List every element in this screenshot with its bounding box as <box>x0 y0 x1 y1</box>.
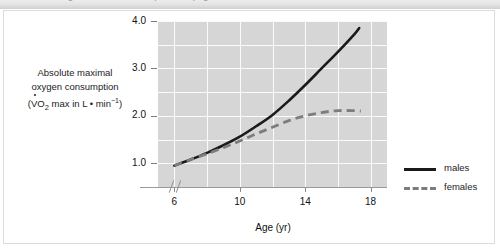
y-axis-title-line-3: (VO2 max in L • min−1) <box>16 94 134 115</box>
y-axis-units-close-paren: ) <box>119 98 122 109</box>
x-axis-line <box>158 187 387 188</box>
y-axis-tick-label: 2.0 <box>118 109 146 120</box>
legend-label-females: females <box>444 181 477 192</box>
y-axis-tick-label: 4.0 <box>118 15 146 26</box>
series-curves <box>158 21 387 187</box>
x-axis-tick-mark <box>240 187 241 192</box>
legend-item-males: males <box>404 161 496 180</box>
y-axis-tick-mark <box>151 68 157 69</box>
x-axis-stub <box>140 187 158 188</box>
oxygen-symbol: O <box>37 98 44 109</box>
y-axis-tick-mark <box>151 21 157 22</box>
y-axis-title: Absolute maximal oxygen consumption (VO2… <box>16 66 134 115</box>
y-axis-tick-label: 1.0 <box>118 157 146 168</box>
x-axis-tick-mark <box>305 187 306 192</box>
y-axis-tick-label: 3.0 <box>118 62 146 73</box>
chart-legend: males females <box>404 161 496 199</box>
v-dot-symbol: V <box>31 97 37 111</box>
y-axis-units-mid: max in L • min <box>49 98 111 109</box>
legend-swatch-males <box>404 168 436 171</box>
cut-off-caption-strip: Figure continued from previous page <box>0 0 500 9</box>
x-axis-tick-label: 14 <box>292 196 318 207</box>
series-line-males <box>174 28 359 166</box>
y-axis-title-line-1: Absolute maximal <box>16 66 134 80</box>
figure-container: Figure continued from previous page Abso… <box>0 0 500 249</box>
y-axis-title-line-2: oxygen consumption <box>16 80 134 94</box>
y-axis-tick-mark <box>151 163 157 164</box>
legend-label-males: males <box>444 162 469 173</box>
legend-swatch-females <box>404 187 436 190</box>
x-axis-title: Age (yr) <box>198 222 348 233</box>
y-axis-tick-mark <box>151 116 157 117</box>
cut-off-caption-text: Figure continued from previous page <box>60 0 214 1</box>
x-axis-tick-label: 6 <box>161 196 187 207</box>
x-axis-tick-mark <box>371 187 372 192</box>
x-axis-tick-label: 10 <box>227 196 253 207</box>
legend-item-females: females <box>404 180 496 199</box>
x-axis-tick-label: 18 <box>358 196 384 207</box>
plot-area <box>158 21 387 187</box>
minute-exponent: −1 <box>111 97 119 104</box>
x-axis-tick-mark <box>174 187 175 192</box>
